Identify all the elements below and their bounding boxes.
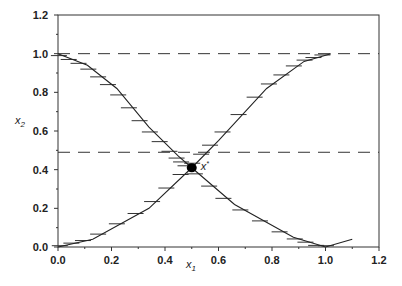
chart: 0.00.20.40.60.81.01.20.00.20.40.60.81.01… <box>0 0 402 286</box>
y-tick-label: 0.6 <box>33 125 48 137</box>
plot-frame <box>58 15 379 247</box>
y-tick-label: 0.4 <box>33 164 49 176</box>
optimum-point-label: x* <box>200 160 210 172</box>
series-lines <box>58 54 352 247</box>
series-line <box>58 54 352 247</box>
series-line <box>58 54 331 247</box>
optimum-point-marker <box>187 163 197 172</box>
y-axis-label: x2 <box>14 114 26 129</box>
y-tick-label: 1.0 <box>33 48 48 60</box>
x-tick-label: 0.4 <box>157 254 173 266</box>
x-tick-label: 0.8 <box>264 254 279 266</box>
x-axis-label: x1 <box>185 258 196 273</box>
x-tick-label: 1.0 <box>318 254 333 266</box>
reference-lines <box>58 54 379 153</box>
x-tick-label: 0.0 <box>50 254 65 266</box>
x-tick-label: 0.2 <box>104 254 119 266</box>
x-tick-label: 0.6 <box>211 254 226 266</box>
y-tick-label: 0.2 <box>33 202 48 214</box>
axis-ticks <box>54 15 379 251</box>
tick-labels: 0.00.20.40.60.81.01.20.00.20.40.60.81.01… <box>33 9 387 266</box>
x-tick-label: 1.2 <box>371 254 386 266</box>
y-tick-label: 1.2 <box>33 9 48 21</box>
y-tick-label: 0.0 <box>33 241 48 253</box>
y-tick-label: 0.8 <box>33 86 48 98</box>
hatch-marks <box>51 55 334 246</box>
